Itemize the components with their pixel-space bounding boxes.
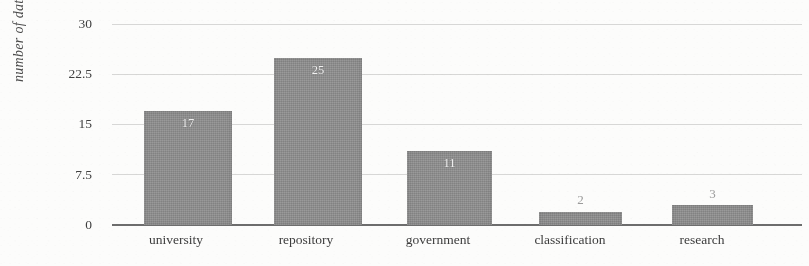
y-tick-label: 7.5 bbox=[28, 167, 92, 183]
bar-value-label: 17 bbox=[144, 116, 232, 131]
x-tick-label-research: research bbox=[634, 232, 770, 248]
bar-value-label: 11 bbox=[407, 156, 492, 171]
x-tick-label-repository: repository bbox=[238, 232, 374, 248]
bar-university: 17 bbox=[144, 111, 232, 225]
bar-chart-figure: number of datasets 30 22.5 15 7.5 0 17 2… bbox=[0, 0, 809, 266]
bar-value-label: 25 bbox=[274, 63, 362, 78]
y-axis-title: number of datasets bbox=[10, 0, 28, 126]
bar-repository: 25 bbox=[274, 58, 362, 226]
bar-value-label: 3 bbox=[672, 186, 753, 202]
bar-classification: 2 bbox=[539, 212, 622, 225]
x-tick-label-classification: classification bbox=[502, 232, 638, 248]
x-tick-label-government: government bbox=[370, 232, 506, 248]
gridline-30 bbox=[112, 24, 802, 25]
y-tick-label: 22.5 bbox=[28, 66, 92, 82]
bar-government: 11 bbox=[407, 151, 492, 225]
bar-research: 3 bbox=[672, 205, 753, 225]
plot-area: 17 25 11 2 3 bbox=[112, 24, 802, 225]
bar-value-label: 2 bbox=[539, 192, 622, 208]
y-tick-label: 30 bbox=[28, 16, 92, 32]
y-tick-label: 15 bbox=[28, 116, 92, 132]
x-tick-label-university: university bbox=[108, 232, 244, 248]
gridline-22-5 bbox=[112, 74, 802, 75]
y-tick-label: 0 bbox=[28, 217, 92, 233]
